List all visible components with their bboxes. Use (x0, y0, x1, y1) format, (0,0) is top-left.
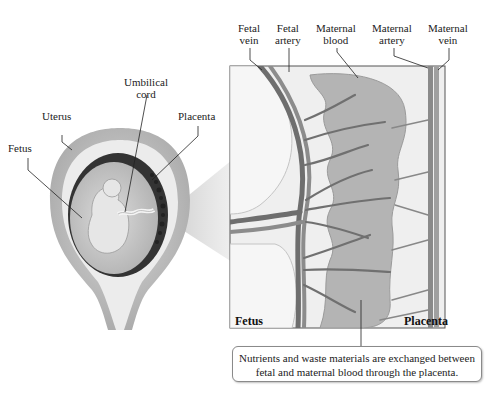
panel-label-fetus: Fetus (235, 314, 263, 329)
label-uterus: Uterus (42, 110, 71, 122)
label-umbilical-cord: Umbilical cord (124, 76, 168, 100)
placenta-detail-panel (230, 66, 445, 328)
panel-label-placenta: Placenta (404, 314, 448, 329)
label-fetus: Fetus (8, 142, 32, 154)
label-maternal-artery: Maternal artery (372, 22, 412, 46)
label-fetal-vein: Fetal vein (238, 22, 260, 46)
label-fetal-artery: Fetal artery (275, 22, 301, 46)
label-maternal-vein: Maternal vein (428, 22, 468, 46)
leader-maternal-artery (394, 48, 428, 68)
caption-line-2: fetal and maternal blood through the pla… (233, 365, 481, 379)
caption-box: Nutrients and waste materials are exchan… (232, 346, 482, 382)
placenta-diagram (0, 0, 491, 402)
caption-line-1: Nutrients and waste materials are exchan… (233, 351, 481, 365)
uterus-illustration (50, 128, 190, 330)
label-maternal-blood: Maternal blood (316, 22, 356, 46)
label-placenta: Placenta (178, 110, 215, 122)
